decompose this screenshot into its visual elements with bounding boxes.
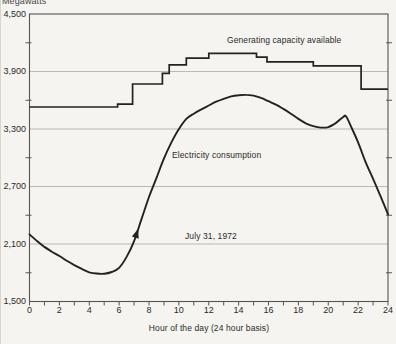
x-tick-label: 2	[57, 306, 62, 315]
capacity-series-line	[30, 53, 389, 107]
y-tick-label: 2,100	[0, 240, 26, 249]
x-tick-label: 20	[323, 306, 333, 315]
x-tick-label: 18	[293, 306, 303, 315]
capacity-series-label: Generating capacity available	[227, 36, 341, 45]
chart-canvas	[0, 0, 396, 344]
x-axis-title: Hour of the day (24 hour basis)	[149, 324, 269, 333]
x-tick-label: 0	[27, 306, 32, 315]
x-tick-label: 12	[204, 306, 214, 315]
x-tick-label: 4	[87, 306, 92, 315]
x-tick-label: 10	[174, 306, 184, 315]
consumption-series-line	[30, 95, 389, 274]
curve-direction-arrow-icon	[132, 228, 142, 239]
date-annotation: July 31, 1972	[185, 232, 237, 241]
axis-ticks	[26, 43, 393, 306]
y-tick-label: 1,500	[0, 297, 26, 306]
x-tick-label: 16	[263, 306, 273, 315]
scanned-chart-page: { "unit_label": "Megawatts", "x_axis_tit…	[0, 0, 396, 344]
y-axis-unit-label: Megawatts	[2, 0, 46, 6]
x-tick-label: 8	[146, 306, 151, 315]
y-tick-label: 3,300	[0, 125, 26, 134]
consumption-series-label: Electricity consumption	[172, 151, 261, 160]
x-tick-label: 14	[234, 306, 244, 315]
x-tick-label: 6	[117, 306, 122, 315]
y-tick-label: 3,900	[0, 67, 26, 76]
y-tick-label: 2,700	[0, 182, 26, 191]
x-tick-label: 22	[353, 306, 363, 315]
x-tick-label: 24	[383, 306, 393, 315]
y-tick-label: 4,500	[0, 10, 26, 19]
electricity-chart: Megawatts Generating capacity available …	[0, 0, 396, 344]
